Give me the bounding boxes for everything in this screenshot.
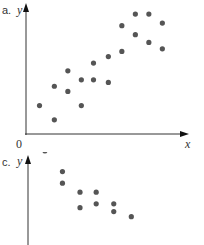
data-point bbox=[60, 181, 65, 186]
data-point bbox=[65, 68, 70, 73]
data-point bbox=[119, 49, 124, 54]
data-point bbox=[146, 11, 151, 16]
data-point bbox=[42, 152, 47, 154]
data-point bbox=[77, 205, 82, 210]
y-axis-arrow-icon bbox=[25, 155, 31, 164]
scatter-panel-c: c. y bbox=[0, 152, 204, 245]
data-point bbox=[106, 54, 111, 59]
data-point bbox=[133, 11, 138, 16]
data-point bbox=[160, 20, 165, 25]
data-point bbox=[129, 214, 134, 219]
data-point bbox=[52, 117, 57, 122]
scatter-plot-c bbox=[0, 152, 204, 245]
data-point bbox=[94, 201, 99, 206]
data-point bbox=[52, 84, 57, 89]
data-point bbox=[37, 103, 42, 108]
data-point bbox=[60, 169, 65, 174]
data-point bbox=[65, 89, 70, 94]
data-point bbox=[91, 77, 96, 82]
data-point bbox=[79, 77, 84, 82]
data-point bbox=[77, 190, 82, 195]
data-point bbox=[111, 209, 116, 214]
data-point bbox=[111, 201, 116, 206]
scatter-plot-a bbox=[0, 0, 204, 150]
data-point bbox=[79, 103, 84, 108]
data-point bbox=[119, 23, 124, 28]
data-point bbox=[106, 80, 111, 85]
data-point bbox=[91, 60, 96, 65]
data-point bbox=[94, 190, 99, 195]
y-axis-arrow-icon bbox=[23, 3, 29, 12]
data-point bbox=[146, 40, 151, 45]
data-point bbox=[133, 32, 138, 37]
x-axis-arrow-icon bbox=[180, 131, 189, 137]
scatter-panel-a: a. y 0 x bbox=[0, 0, 204, 150]
data-point bbox=[160, 46, 165, 51]
